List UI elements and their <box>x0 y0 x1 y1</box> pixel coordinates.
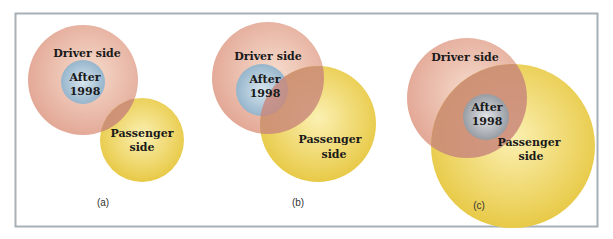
after-1998-label-line2: 1998 <box>472 115 503 128</box>
passenger-side-label-line2: side <box>321 148 346 161</box>
panel-caption-b: (b) <box>292 197 304 208</box>
after-1998-label-line2: 1998 <box>250 87 281 100</box>
passenger-side-label-line1: Passenger <box>299 133 362 146</box>
driver-side-label: Driver side <box>234 50 302 63</box>
driver-side-label: Driver side <box>53 47 121 60</box>
venn-diagram-figure: Driver side After 1998 Passenger side (a… <box>0 0 613 239</box>
panel-caption-a: (a) <box>97 197 109 208</box>
after-1998-label-line1: After <box>471 101 503 114</box>
passenger-side-label-line2: side <box>518 150 543 163</box>
passenger-side-label-line1: Passenger <box>498 136 561 149</box>
passenger-side-label-line2: side <box>129 141 154 154</box>
after-1998-label-line1: After <box>249 73 281 86</box>
after-1998-label-line1: After <box>69 71 101 84</box>
driver-side-label: Driver side <box>431 51 499 64</box>
after-1998-label-line2: 1998 <box>70 85 101 98</box>
panel-caption-c: (c) <box>473 200 485 211</box>
passenger-side-label-line1: Passenger <box>111 127 174 140</box>
